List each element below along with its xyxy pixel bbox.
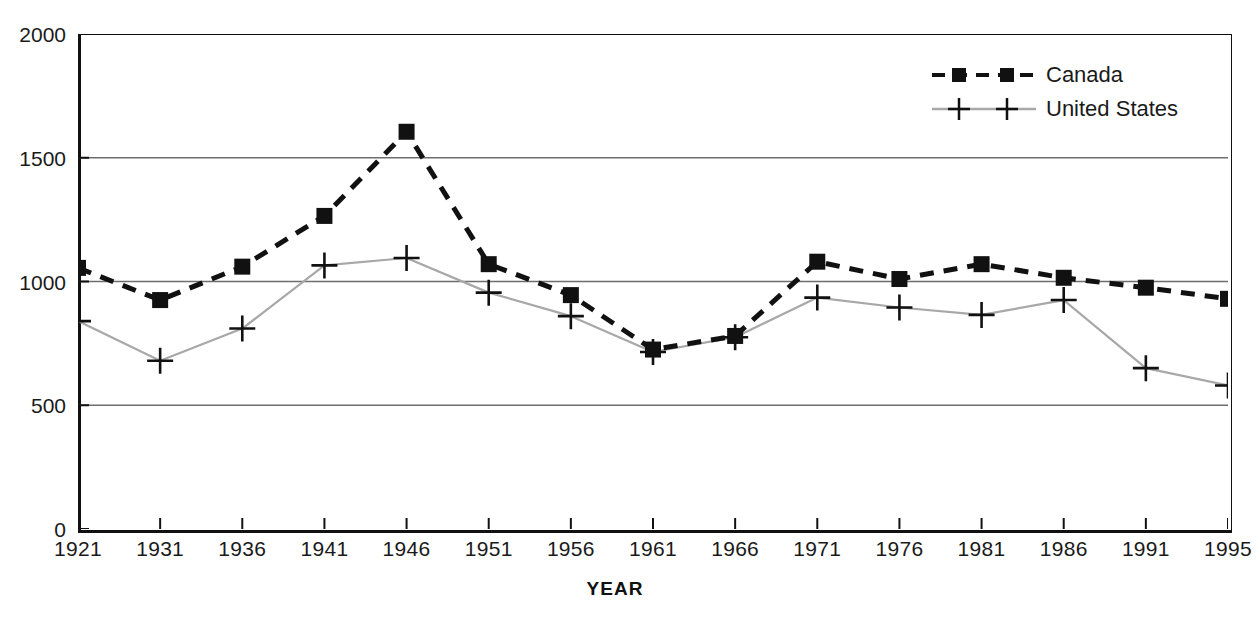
data-point-marker — [476, 280, 502, 306]
data-point-marker — [1220, 291, 1228, 307]
data-point-marker — [399, 124, 415, 140]
x-axis-tick-label: 1966 — [690, 537, 780, 561]
data-point-marker — [147, 348, 173, 374]
chart-legend: Canada United States — [930, 58, 1220, 126]
legend-label-united-states: United States — [1038, 96, 1178, 122]
data-point-marker — [645, 342, 661, 358]
legend-item-canada: Canada — [930, 58, 1220, 92]
y-axis-tick-label-text: 1000 — [19, 271, 66, 295]
line-chart: 0500100015002000 19211931193619411946195… — [0, 0, 1260, 623]
x-axis-tick-label: 1976 — [854, 537, 944, 561]
x-axis-tick-label: 1971 — [772, 537, 862, 561]
data-point-marker — [809, 254, 825, 270]
data-point-marker — [969, 302, 995, 328]
legend-swatch-canada — [930, 62, 1038, 88]
y-axis-tick-label-text: 1500 — [19, 147, 66, 171]
data-point-marker — [78, 260, 86, 276]
data-point-marker — [1056, 270, 1072, 286]
data-point-marker — [558, 303, 584, 329]
data-point-marker — [563, 287, 579, 303]
x-axis-tick-label: 1936 — [197, 537, 287, 561]
data-point-marker — [1133, 355, 1159, 381]
data-point-marker — [804, 285, 830, 311]
x-axis-title-text: YEAR — [587, 578, 644, 600]
data-point-marker — [311, 252, 337, 278]
series-line-united-states — [78, 258, 1228, 385]
x-axis-tick-label: 1995 — [1183, 537, 1260, 561]
series-line-canada — [78, 132, 1228, 350]
data-point-marker — [316, 208, 332, 224]
data-point-marker — [1215, 372, 1228, 398]
data-point-marker — [394, 245, 420, 271]
legend-swatch-united-states — [930, 96, 1038, 122]
x-axis-tick-label: 1951 — [444, 537, 534, 561]
y-axis-tick-label-text: 500 — [31, 394, 66, 418]
y-axis-tick-label-text: 2000 — [19, 23, 66, 47]
data-point-marker — [481, 256, 497, 272]
data-point-marker — [1051, 287, 1077, 313]
x-axis-tick-label: 1986 — [1019, 537, 1109, 561]
data-point-marker — [886, 294, 912, 320]
x-axis-tick-label: 1981 — [937, 537, 1027, 561]
legend-label-canada: Canada — [1038, 62, 1123, 88]
x-axis-tick-label: 1941 — [279, 537, 369, 561]
x-axis-tick-label: 1946 — [362, 537, 452, 561]
data-point-marker — [78, 308, 91, 334]
data-point-marker — [1138, 280, 1154, 296]
data-point-marker — [974, 256, 990, 272]
x-axis-tick-label: 1991 — [1101, 537, 1191, 561]
data-point-marker — [229, 316, 255, 342]
x-axis-title: YEAR — [0, 578, 1260, 600]
x-axis-tick-label: 1931 — [115, 537, 205, 561]
data-point-marker — [727, 328, 743, 344]
x-axis-tick-label: 1956 — [526, 537, 616, 561]
legend-item-united-states: United States — [930, 92, 1220, 126]
data-point-marker — [152, 292, 168, 308]
data-point-marker — [234, 259, 250, 275]
data-point-marker — [891, 271, 907, 287]
x-axis-tick-label: 1961 — [608, 537, 698, 561]
x-axis-tick-label: 1921 — [33, 537, 123, 561]
